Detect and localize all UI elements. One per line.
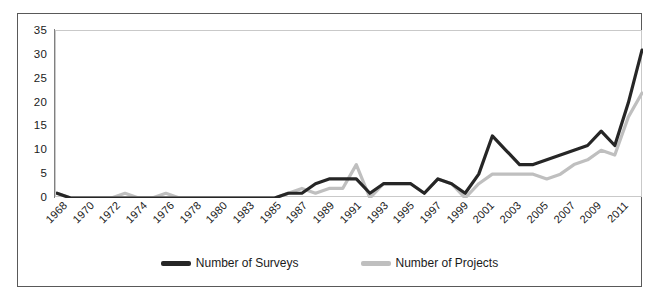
y-axis-tick-15: 15 [34,119,47,131]
x-axis-tick-1976: 1976 [150,199,176,225]
chart-figure: 05101520253035 1968197019721974197619781… [0,0,659,303]
y-axis-tick-10: 10 [34,143,47,155]
x-axis-tick-2007: 2007 [551,199,577,225]
legend-swatch-icon [161,261,191,266]
x-axis-tick-2011: 2011 [605,199,631,225]
plot-area [55,30,642,197]
x-axis-tick-1999: 1999 [444,199,470,225]
x-axis-tick-labels: 1968197019721974197619781980198319851987… [55,197,642,249]
legend-entry-0[interactable]: Number of Surveys [161,256,299,270]
series-line-number-of-projects [57,93,642,198]
y-axis-tick-25: 25 [34,72,47,84]
series-lines [56,31,643,198]
x-axis-tick-2003: 2003 [497,199,523,225]
x-axis-tick-2005: 2005 [524,199,550,225]
x-axis-tick-1972: 1972 [97,199,123,225]
x-axis-tick-1995: 1995 [390,199,416,225]
legend-label: Number of Projects [396,256,499,270]
x-axis-tick-1991: 1991 [337,199,363,225]
y-axis-tick-35: 35 [34,24,47,36]
x-axis-tick-1978: 1978 [177,199,203,225]
legend-swatch-icon [361,261,391,266]
x-axis-tick-1997: 1997 [417,199,443,225]
x-axis-tick-1993: 1993 [364,199,390,225]
legend-label: Number of Surveys [196,256,299,270]
y-axis-tick-30: 30 [34,48,47,60]
chart-legend: Number of SurveysNumber of Projects [17,252,642,274]
x-axis-tick-2009: 2009 [577,199,603,225]
y-axis-tick-20: 20 [34,96,47,108]
y-axis-tick-0: 0 [40,191,47,203]
legend-entry-1[interactable]: Number of Projects [361,256,499,270]
x-axis-tick-1987: 1987 [284,199,310,225]
x-axis-tick-1980: 1980 [203,199,229,225]
x-axis-tick-1985: 1985 [257,199,283,225]
y-axis-tick-5: 5 [40,167,47,179]
x-axis-tick-1983: 1983 [230,199,256,225]
x-axis-tick-1989: 1989 [310,199,336,225]
x-axis-tick-1974: 1974 [123,199,149,225]
x-axis-tick-2001: 2001 [471,199,497,225]
y-axis-tick-labels: 05101520253035 [17,30,51,197]
x-axis-tick-1970: 1970 [70,199,96,225]
